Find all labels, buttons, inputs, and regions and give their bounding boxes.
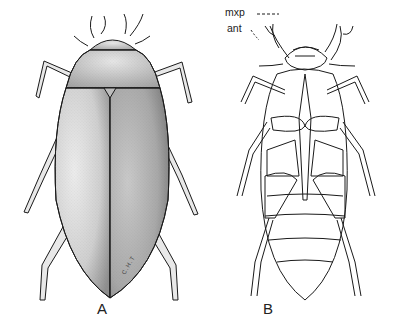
annotation-mxp: mxp (225, 6, 245, 18)
beetle-dorsal-illustration (0, 0, 215, 324)
panel-label-a: A (97, 300, 107, 317)
annotation-ant: ant (227, 22, 242, 34)
panel-b-ventral-view: mxp ant B (215, 0, 420, 324)
panel-label-b: B (263, 300, 273, 317)
panel-a-dorsal-view: C.H.T A (0, 0, 215, 324)
beetle-ventral-illustration (215, 0, 420, 324)
